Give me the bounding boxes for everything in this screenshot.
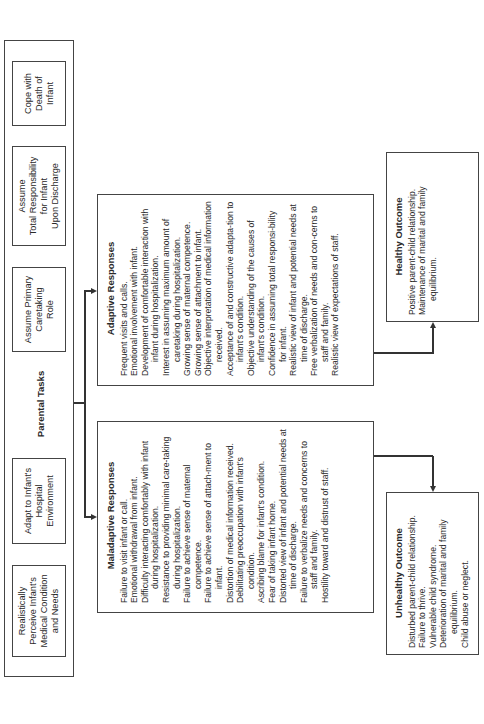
list-item: Vulnerable child syndrome. — [428, 498, 439, 648]
healthy-title: Healthy Outcome — [394, 158, 405, 315]
list-item: Ascribing blame for infant's condition. — [256, 428, 267, 603]
list-item: Deterioration of marital and family equi… — [438, 498, 459, 648]
list-item: Debilitating preoccupation with infant's… — [235, 428, 256, 603]
list-item: Failure to verbalize needs and concerns … — [299, 428, 320, 603]
list-item: Distorted view of infant and potential n… — [278, 428, 299, 603]
healthy-list: Positive parent-child relationship. Main… — [407, 158, 439, 315]
list-item: Realistic view of expectations of staff. — [330, 201, 341, 376]
list-item: Hostility toward and distrust of staff. — [320, 428, 331, 603]
maladaptive-responses-box: Maladaptive Responses Failure to visit i… — [97, 421, 374, 613]
healthy-outcome-box: Healthy Outcome Positive parent-child re… — [386, 152, 479, 322]
connector-to-unhealthy — [374, 456, 433, 458]
list-item: Objective understanding of the causes of… — [246, 201, 267, 376]
list-item: Growing sense of attachment to infant. — [193, 201, 204, 376]
list-item: Difficulty interacting comfortably with … — [140, 428, 161, 603]
connector-stub — [74, 403, 84, 405]
connector-trunk — [84, 290, 86, 518]
list-item: Failure to achieve sense of attach-ment … — [203, 428, 224, 603]
list-item: Disturbed parent-child relationship. — [407, 498, 418, 648]
task-label: Realistically Perceive Infant's Medical … — [17, 574, 61, 647]
unhealthy-outcome-box: Unhealthy Outcome Disturbed parent-child… — [386, 492, 479, 655]
adaptive-responses-box: Adaptive Responses Frequent visits and c… — [97, 194, 374, 386]
task-label: Cope with Death of Infant — [23, 73, 56, 114]
adaptive-list: Frequent visits and calls. Emotional inv… — [119, 201, 341, 376]
adaptive-title: Adaptive Responses — [106, 201, 117, 376]
unhealthy-list: Disturbed parent-child relationship. Fai… — [407, 498, 471, 648]
task-label: Assume Primary Caretaking Role — [23, 276, 56, 343]
list-item: Frequent visits and calls. — [119, 201, 130, 376]
arrow-icon — [430, 322, 436, 328]
list-item: Failure to thrive. — [417, 498, 428, 648]
task-primary-caretaking: Assume Primary Caretaking Role — [12, 267, 66, 352]
unhealthy-title: Unhealthy Outcome — [394, 498, 405, 648]
task-label: Assume Total Responsibility for Infant U… — [17, 157, 61, 236]
list-item: Growing sense of maternal competence. — [182, 201, 193, 376]
list-item: Failure to achieve sense of maternal com… — [182, 428, 203, 603]
flow-diagram: Realistically Perceive Infant's Medical … — [0, 0, 484, 724]
list-item: Interest in assuming maximum amount of c… — [161, 201, 182, 376]
connector-to-unhealthy — [432, 456, 434, 486]
list-item: Realistic view of infant and potential n… — [288, 201, 309, 376]
list-item: Child abuse or neglect. — [460, 498, 471, 648]
list-item: Failure to visit infant or call. — [119, 428, 130, 603]
list-item: Maintenance of marital and family equili… — [417, 158, 438, 315]
list-item: Positive parent-child relationship. — [407, 158, 418, 315]
list-item: Development of comfortable interaction w… — [140, 201, 161, 376]
task-realistically-perceive: Realistically Perceive Infant's Medical … — [12, 565, 66, 657]
maladaptive-list: Failure to visit infant or call. Emotion… — [119, 428, 331, 603]
parental-tasks-title: Parental Tasks — [35, 364, 46, 444]
list-item: Emotional involvement with infant. — [129, 201, 140, 376]
task-cope-death: Cope with Death of Infant — [12, 61, 66, 126]
task-total-responsibility: Assume Total Responsibility for Infant U… — [12, 146, 66, 246]
task-label: Adapt to Infant's Hospital Environment — [23, 468, 56, 534]
list-item: Objective interpretation of medical info… — [203, 201, 224, 376]
list-item: Confidence in assuming total responsi-bi… — [267, 201, 288, 376]
connector-to-healthy — [374, 353, 433, 355]
list-item: Resistance to providing minimal care-tak… — [161, 428, 182, 603]
task-adapt-hospital: Adapt to Infant's Hospital Environment — [12, 458, 66, 544]
list-item: Free verbalization of needs and con-cern… — [309, 201, 330, 376]
maladaptive-title: Maladaptive Responses — [106, 428, 117, 603]
list-item: Fear of taking infant home. — [267, 428, 278, 603]
list-item: Distortion of medical information receiv… — [225, 428, 236, 603]
connector-to-healthy — [432, 327, 434, 354]
list-item: Emotional withdrawal from infant. — [129, 428, 140, 603]
list-item: Acceptance of and constructive adapta-ti… — [225, 201, 246, 376]
